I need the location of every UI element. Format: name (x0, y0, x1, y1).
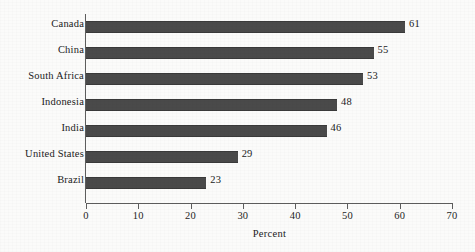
bar-row: China55 (0, 40, 475, 66)
x-tick-label: 20 (185, 210, 196, 221)
x-tick-mark (347, 204, 348, 209)
bar-row: United States29 (0, 144, 475, 170)
bar-value-label: 48 (341, 96, 352, 107)
x-tick-mark (138, 204, 139, 209)
x-tick-mark (86, 204, 87, 209)
x-axis-line (86, 203, 453, 204)
x-axis-title: Percent (86, 228, 453, 239)
x-tick-label: 30 (237, 210, 248, 221)
category-label: United States (25, 148, 84, 159)
category-label: India (61, 122, 84, 133)
bar-row: South Africa53 (0, 66, 475, 92)
x-tick-label: 70 (447, 210, 458, 221)
x-tick-label: 40 (290, 210, 301, 221)
bar (86, 99, 337, 111)
bar-row: India46 (0, 118, 475, 144)
category-label: Brazil (57, 174, 84, 185)
bar-value-label: 61 (409, 18, 420, 29)
bar-value-label: 46 (331, 122, 342, 133)
bar-value-label: 55 (378, 44, 389, 55)
bar (86, 177, 206, 189)
x-tick-mark (400, 204, 401, 209)
category-label: China (58, 44, 84, 55)
bar-value-label: 53 (367, 70, 378, 81)
bar-row: Indonesia48 (0, 92, 475, 118)
category-label: South Africa (28, 70, 84, 81)
x-tick-label: 10 (133, 210, 144, 221)
bar (86, 151, 238, 163)
category-label: Canada (51, 18, 84, 29)
bar-value-label: 23 (210, 174, 221, 185)
x-tick-mark (295, 204, 296, 209)
bar-row: Brazil23 (0, 170, 475, 196)
x-tick-mark (191, 204, 192, 209)
bar (86, 47, 374, 59)
horizontal-bar-chart: Canada61China55South Africa53Indonesia48… (0, 0, 475, 252)
bar (86, 21, 405, 33)
x-tick-label: 50 (342, 210, 353, 221)
category-label: Indonesia (41, 96, 84, 107)
x-tick-label: 0 (83, 210, 88, 221)
x-tick-label: 60 (394, 210, 405, 221)
x-tick-mark (452, 204, 453, 209)
bar-value-label: 29 (242, 148, 253, 159)
bar (86, 73, 363, 85)
bar (86, 125, 327, 137)
x-tick-mark (243, 204, 244, 209)
bar-row: Canada61 (0, 14, 475, 40)
